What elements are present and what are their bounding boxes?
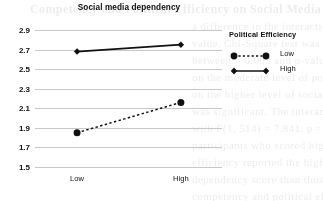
- chart-legend: Political Efficiency Low High: [229, 30, 321, 76]
- y-axis-tick-label: 1.9: [19, 123, 30, 132]
- y-axis-tick-label: 1.5: [19, 163, 30, 172]
- legend-item-low: Low: [229, 46, 321, 61]
- y-axis-tick-label: 2.7: [19, 45, 30, 54]
- legend-label-high: High: [280, 64, 296, 73]
- y-axis-tick-label: 2.5: [19, 65, 30, 74]
- series-line-low: [77, 102, 181, 132]
- x-axis-tick-label: Low: [70, 174, 84, 183]
- data-point-high: [178, 41, 184, 47]
- chart-figure: Social media dependency 1.51.71.92.12.32…: [0, 0, 323, 201]
- legend-key-low-icon: [229, 48, 271, 60]
- legend-item-high: High: [229, 61, 321, 76]
- plot-area: 1.51.71.92.12.32.52.72.9 LowHigh: [35, 30, 222, 167]
- data-series-layer: [35, 30, 222, 167]
- legend-label-low: Low: [280, 49, 294, 58]
- data-point-high: [74, 48, 80, 54]
- data-point-low: [74, 129, 81, 136]
- x-axis-tick-label: High: [173, 174, 189, 183]
- y-axis-tick-label: 2.1: [19, 104, 30, 113]
- data-point-low: [177, 99, 184, 106]
- y-axis-tick-label: 2.9: [19, 26, 30, 35]
- legend-title: Political Efficiency: [229, 30, 321, 39]
- chart-title: Social media dependency: [35, 3, 223, 12]
- y-axis-tick-label: 2.3: [19, 84, 30, 93]
- series-line-high: [77, 45, 181, 52]
- legend-key-high-icon: [229, 63, 271, 75]
- gridline: [35, 167, 222, 168]
- y-axis-tick-label: 1.7: [19, 143, 30, 152]
